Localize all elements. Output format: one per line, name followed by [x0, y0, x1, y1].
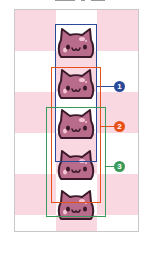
- callout-badge-3: 3: [114, 161, 125, 172]
- callout-badge-2: 2: [114, 121, 125, 132]
- grid-cell: [15, 10, 56, 51]
- cropped-caption: [40, 0, 120, 3]
- grid-cell: [97, 10, 138, 51]
- grid-cell: [15, 51, 56, 92]
- grid-cell: [97, 215, 138, 232]
- grid-cell: [15, 215, 56, 232]
- selection-box-3: [46, 107, 106, 217]
- callout-badge-1: 1: [114, 81, 125, 92]
